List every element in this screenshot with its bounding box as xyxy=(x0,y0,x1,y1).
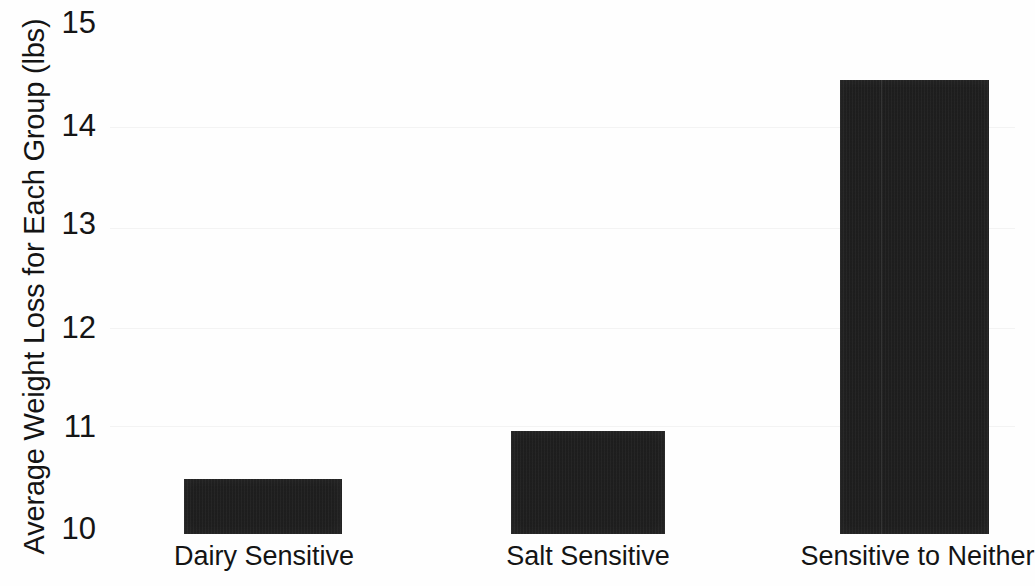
y-axis-tick-labels: 15 14 13 12 11 10 xyxy=(36,0,96,586)
x-category-label-salt-sensitive: Salt Sensitive xyxy=(483,543,693,570)
bar-seam-line xyxy=(881,80,882,534)
bar-chart-figure: Average Weight Loss for Each Group (lbs)… xyxy=(0,0,1035,586)
x-category-label-sensitive-to-neither: Sensitive to Neither xyxy=(800,543,1035,570)
y-tick-label: 14 xyxy=(36,110,96,141)
y-tick-label: 13 xyxy=(36,208,96,239)
y-tick-label: 11 xyxy=(36,411,96,442)
bar-salt-sensitive[interactable] xyxy=(511,431,665,534)
bar-sensitive-to-neither[interactable] xyxy=(840,80,989,534)
y-tick-label: 15 xyxy=(36,7,96,38)
plot-area: Dairy Sensitive Salt Sensitive Sensitive… xyxy=(110,0,1035,586)
y-tick-label: 12 xyxy=(36,312,96,343)
bar-dairy-sensitive[interactable] xyxy=(184,479,342,534)
x-category-label-dairy-sensitive: Dairy Sensitive xyxy=(154,543,374,570)
y-tick-label: 10 xyxy=(36,513,96,544)
